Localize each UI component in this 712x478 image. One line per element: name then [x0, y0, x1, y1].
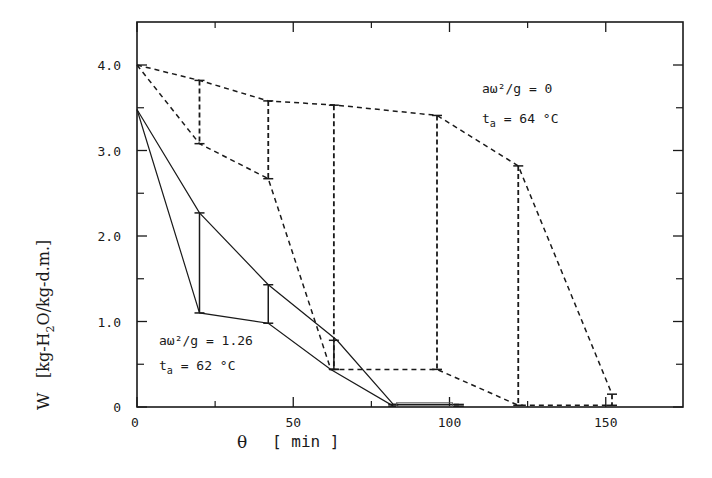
y-tick-label: 2.0 — [98, 229, 121, 244]
annotation-dashed-line2: ta = 64 °C — [482, 111, 558, 129]
annotation-dashed-line1: aω²/g = 0 — [482, 81, 552, 96]
x-tick-label: 100 — [438, 415, 461, 430]
y-tick-label: 4.0 — [98, 58, 121, 73]
y-tick-label: 1.0 — [98, 315, 121, 330]
y-axis-unit: [kg-H2O/kg-d.m.] — [34, 240, 57, 378]
annotation-solid-line1: aω²/g = 1.26 — [159, 333, 253, 348]
x-tick-label: 50 — [285, 415, 301, 430]
series-annotations: aω²/g = 0 ta = 64 °C aω²/g = 1.26 ta = 6… — [159, 81, 558, 376]
drying-curve-chart: 05010015001.02.03.04.0 aω²/g = 0 ta = 64… — [0, 0, 712, 478]
plot-border — [137, 22, 683, 407]
plot-frame — [137, 22, 683, 407]
axis-ticks — [137, 22, 683, 407]
y-axis-symbol: W — [33, 392, 53, 410]
x-tick-label: 0 — [131, 415, 139, 430]
annotation-solid-line2: ta = 62 °C — [159, 358, 235, 376]
y-axis-title: W [kg-H2O/kg-d.m.] — [33, 240, 57, 410]
y-tick-label: 3.0 — [98, 144, 121, 159]
x-axis-unit: [ min ] — [272, 432, 339, 451]
y-tick-label: 0 — [113, 400, 121, 415]
error-bars — [195, 80, 618, 406]
x-tick-label: 150 — [594, 415, 617, 430]
x-axis-symbol: θ — [237, 432, 247, 452]
